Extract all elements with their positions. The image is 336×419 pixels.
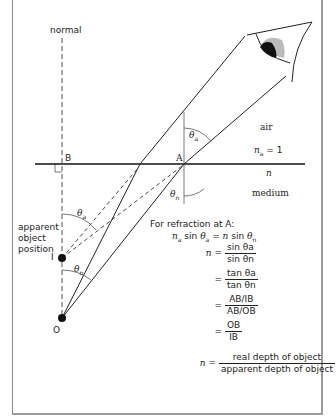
theta-n-a-label: θn [170,189,179,203]
equation-intro: For refraction at A: [150,219,234,229]
air-label: air [260,122,273,133]
equation-steps: n = sin θasin θn = tan θatan θn = AB/IBA… [200,242,258,342]
theta-a-i-label: θa [77,208,86,222]
equation-step-5: n = real depth of objectapparent depth o… [196,352,335,374]
equation-step-1: n = sin θasin θn [200,242,258,264]
theta-n-o-label: θn [74,264,83,278]
point-i [58,254,66,262]
point-o-label: O [53,325,60,336]
theta-n-arc-a [184,189,204,196]
equation-step-4: = OBIB [200,320,258,342]
virtual-ray-upper [62,168,138,258]
medium-label: medium [252,188,289,199]
ray-lower-medium [62,164,184,318]
point-o [58,314,66,322]
ray-upper-air [140,36,245,164]
equation-step-3: = AB/IBAB/OB [200,294,258,316]
eye-icon [247,22,312,82]
apparent-object-position-label: apparent object position [18,222,59,255]
ray-upper-medium [62,164,140,318]
right-angle-marker [55,164,62,172]
theta-a-top-label: θa [189,130,198,144]
normal-label: normal [50,25,82,36]
point-b-label: B [65,153,71,164]
n-medium-label: n [266,168,272,179]
na-equals-label: na = 1 [254,145,283,159]
equation-step-2: = tan θatan θn [200,268,258,290]
point-a-label: A [176,153,183,164]
